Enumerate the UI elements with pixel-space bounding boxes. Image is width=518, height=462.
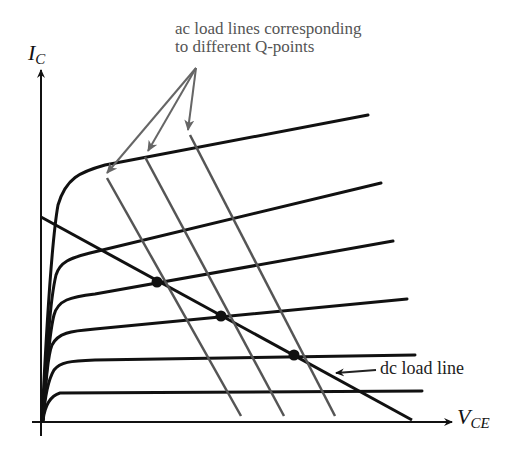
y-axis-label: IC — [28, 40, 45, 68]
load-line-diagram: ac load lines corresponding to different… — [0, 0, 518, 462]
ac-load-lines — [107, 135, 335, 416]
dc-load-line-label: dc load line — [380, 358, 464, 379]
characteristic-curves — [42, 115, 422, 420]
ac-arrow-2 — [148, 68, 196, 151]
y-axis-label-sub: C — [35, 51, 45, 67]
x-axis-label-main: V — [457, 404, 470, 429]
ac-load-lines-label: ac load lines corresponding to different… — [175, 20, 361, 56]
q-point-2 — [216, 311, 227, 322]
x-axis-label: VCE — [457, 404, 490, 432]
dc-annotation-arrow — [336, 370, 376, 373]
diagram-graphics — [0, 0, 518, 462]
ac-label-line-2: to different Q-points — [175, 38, 361, 56]
x-axis-label-sub: CE — [470, 415, 489, 431]
ac-label-line-1: ac load lines corresponding — [175, 20, 361, 38]
q-point-3 — [289, 350, 300, 361]
q-point-1 — [152, 277, 163, 288]
curve-ib-5 — [43, 183, 381, 420]
curve-ib-2 — [43, 355, 415, 420]
